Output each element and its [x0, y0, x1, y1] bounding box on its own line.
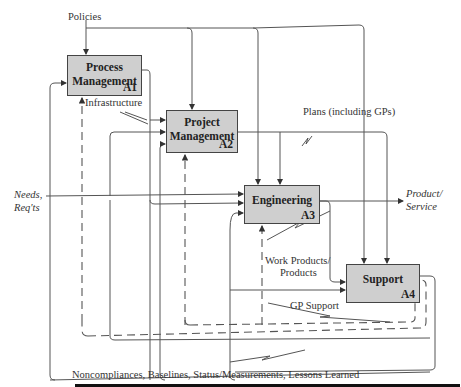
box-process-management: Process Management A1: [67, 55, 142, 96]
box-code: A3: [301, 209, 315, 221]
label-policies: Policies: [68, 10, 101, 23]
box-code: A1: [123, 81, 137, 93]
box-code: A2: [219, 138, 233, 150]
label-needs: Needs,: [14, 188, 42, 201]
box-title: Engineering: [245, 193, 319, 207]
box-project-management: Project Management A2: [166, 110, 238, 153]
box-title: Support: [347, 272, 419, 286]
label-products: Products: [280, 266, 317, 279]
label-feedback: Noncompliances, Baselines, Status/Measur…: [72, 368, 359, 381]
box-support: Support A4: [346, 264, 420, 303]
label-infrastructure: Infrastructure: [85, 96, 142, 109]
label-plans: Plans (including GPs): [303, 105, 395, 118]
label-service: Service: [406, 200, 437, 213]
label-gp-support: GP Support: [290, 299, 339, 312]
label-product: Product/: [406, 187, 442, 200]
label-reqts: Req'ts: [14, 201, 40, 214]
box-engineering: Engineering A3: [244, 185, 320, 224]
box-code: A4: [401, 288, 415, 300]
